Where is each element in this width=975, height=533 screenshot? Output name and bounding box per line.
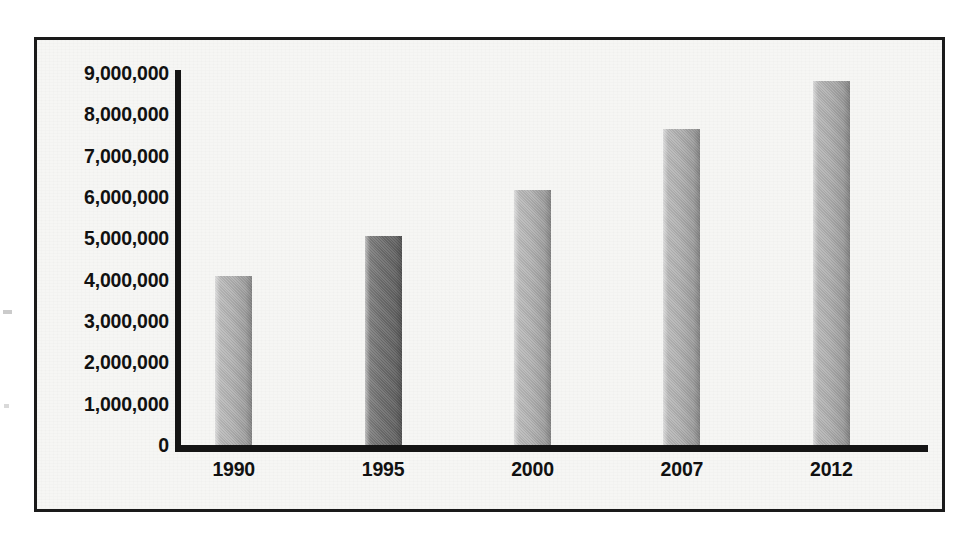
bar-shading bbox=[215, 276, 252, 445]
bar-shading bbox=[813, 81, 850, 445]
x-axis-tick-label-1990: 1990 bbox=[212, 458, 255, 481]
x-axis-tick-label-2000: 2000 bbox=[511, 458, 554, 481]
bar-2007[interactable] bbox=[663, 129, 700, 445]
bar-shading bbox=[663, 129, 700, 445]
bar-1990[interactable] bbox=[215, 276, 252, 445]
screenshot-root: 9,000,0008,000,0007,000,0006,000,0005,00… bbox=[0, 0, 975, 533]
chart-frame: 9,000,0008,000,0007,000,0006,000,0005,00… bbox=[34, 37, 945, 512]
scan-artifact-mark bbox=[3, 310, 12, 314]
bar-2012[interactable] bbox=[813, 81, 850, 445]
x-axis-tick-label-2012: 2012 bbox=[810, 458, 853, 481]
x-axis-tick-label-1995: 1995 bbox=[362, 458, 405, 481]
x-axis-tick-label-2007: 2007 bbox=[661, 458, 704, 481]
bar-series bbox=[37, 40, 942, 509]
bar-shading bbox=[365, 236, 402, 445]
bar-1995[interactable] bbox=[365, 236, 402, 445]
scan-artifact-mark bbox=[4, 404, 9, 408]
bar-shading bbox=[514, 190, 551, 445]
x-axis-category-labels: 19901995200020072012 bbox=[37, 458, 942, 498]
bar-2000[interactable] bbox=[514, 190, 551, 445]
bar-chart-plot-area: 9,000,0008,000,0007,000,0006,000,0005,00… bbox=[37, 40, 942, 509]
